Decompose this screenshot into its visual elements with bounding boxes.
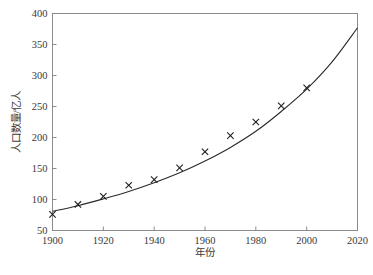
x-axis-title: 年份 bbox=[195, 246, 216, 258]
y-tick-label: 300 bbox=[32, 70, 48, 81]
y-axis-title: 人口数量/亿人 bbox=[10, 90, 22, 154]
data-point-marker bbox=[303, 85, 309, 91]
x-tick-label: 1940 bbox=[144, 235, 165, 246]
x-tick-label: 2000 bbox=[296, 235, 317, 246]
y-tick-label: 250 bbox=[32, 101, 48, 112]
data-point-marker bbox=[75, 201, 81, 207]
y-tick-label: 200 bbox=[32, 132, 48, 143]
x-tick-label: 2020 bbox=[347, 235, 368, 246]
x-tick-label: 1920 bbox=[93, 235, 114, 246]
y-axis-tick-labels: 50100150200250300350400 bbox=[32, 8, 48, 236]
y-tick-label: 100 bbox=[32, 194, 48, 205]
x-tick-label: 1960 bbox=[195, 235, 216, 246]
chart-figure: 50100150200250300350400 1900192019401960… bbox=[0, 0, 373, 275]
population-growth-chart: 50100150200250300350400 1900192019401960… bbox=[0, 0, 373, 275]
data-point-marker bbox=[278, 103, 284, 109]
x-axis-tick-labels: 1900192019401960198020002020 bbox=[42, 235, 368, 246]
data-point-marker bbox=[126, 182, 132, 188]
data-point-markers bbox=[49, 85, 310, 218]
data-point-marker bbox=[227, 132, 233, 138]
y-axis-ticks bbox=[53, 14, 57, 231]
plot-frame bbox=[53, 14, 358, 231]
data-point-marker bbox=[151, 176, 157, 182]
data-point-marker bbox=[176, 165, 182, 171]
y-tick-label: 150 bbox=[32, 163, 48, 174]
y-tick-label: 350 bbox=[32, 39, 48, 50]
x-tick-label: 1900 bbox=[42, 235, 63, 246]
fit-curve bbox=[53, 28, 358, 212]
data-point-marker bbox=[253, 119, 259, 125]
data-point-marker bbox=[202, 149, 208, 155]
x-tick-label: 1980 bbox=[245, 235, 266, 246]
x-axis-ticks bbox=[103, 227, 306, 231]
y-tick-label: 400 bbox=[32, 8, 48, 19]
